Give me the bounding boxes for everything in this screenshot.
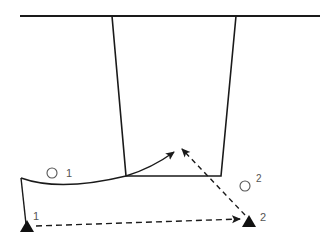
point-1-circle-icon (47, 168, 57, 178)
station-2-triangle-icon (242, 215, 256, 227)
point-2-circle-icon (240, 181, 250, 191)
point-1-label: 1 (66, 167, 72, 179)
tunnel-drop-line (21, 178, 26, 224)
dashed-arrow-horizontal (36, 219, 240, 226)
point-2-label: 2 (256, 173, 262, 184)
tunnel-curve (21, 176, 126, 185)
station-1-label: 1 (33, 210, 39, 222)
dashed-arrow-diagonal (182, 149, 245, 215)
station-2-label: 2 (260, 211, 266, 223)
station-1-triangle-icon (20, 220, 34, 232)
diagram-canvas: 1 2 1 2 (0, 0, 320, 243)
solid-arrow (126, 152, 174, 176)
